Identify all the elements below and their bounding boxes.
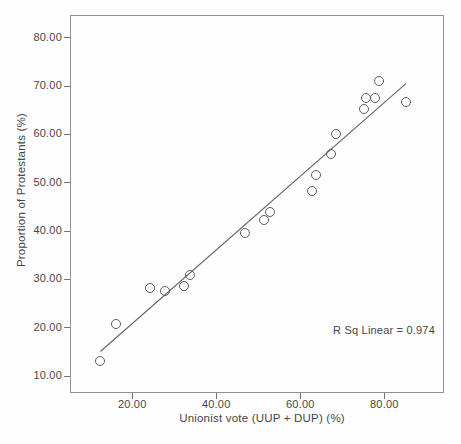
y-tick-mark bbox=[64, 231, 70, 232]
y-tick-mark bbox=[64, 37, 70, 38]
data-point-marker bbox=[265, 207, 275, 217]
data-point-marker bbox=[111, 319, 121, 329]
y-tick-label: 20.00 bbox=[20, 321, 62, 333]
y-tick-mark bbox=[64, 182, 70, 183]
plot-area: R Sq Linear = 0.974 bbox=[70, 15, 444, 393]
data-point-marker bbox=[307, 186, 317, 196]
y-tick-mark bbox=[64, 279, 70, 280]
data-point-marker bbox=[374, 76, 384, 86]
data-point-marker bbox=[185, 270, 195, 280]
y-tick-mark bbox=[64, 86, 70, 87]
data-point-marker bbox=[160, 286, 170, 296]
data-point-marker bbox=[179, 281, 189, 291]
data-point-marker bbox=[311, 170, 321, 180]
x-axis-title: Unionist vote (UUP + DUP) (%) bbox=[179, 412, 345, 424]
x-tick-label: 40.00 bbox=[194, 398, 238, 410]
data-point-marker bbox=[145, 283, 155, 293]
data-point-marker bbox=[331, 129, 341, 139]
y-tick-label: 40.00 bbox=[20, 224, 62, 236]
y-tick-label: 50.00 bbox=[20, 176, 62, 188]
data-point-marker bbox=[240, 228, 250, 238]
y-tick-label: 10.00 bbox=[20, 369, 62, 381]
y-tick-mark bbox=[64, 376, 70, 377]
data-point-marker bbox=[370, 93, 380, 103]
y-tick-mark bbox=[64, 327, 70, 328]
y-tick-label: 80.00 bbox=[20, 31, 62, 43]
data-point-marker bbox=[359, 104, 369, 114]
data-point-marker bbox=[401, 97, 411, 107]
y-tick-label: 30.00 bbox=[20, 272, 62, 284]
y-tick-mark bbox=[64, 134, 70, 135]
r-squared-annotation: R Sq Linear = 0.974 bbox=[333, 324, 435, 336]
y-tick-label: 70.00 bbox=[20, 79, 62, 91]
data-point-marker bbox=[326, 149, 336, 159]
scatter-chart: Proportion of Protestants (%) R Sq Linea… bbox=[0, 0, 461, 444]
data-point-marker bbox=[95, 356, 105, 366]
y-tick-label: 60.00 bbox=[20, 127, 62, 139]
regression-fit-line bbox=[100, 84, 406, 352]
x-tick-label: 80.00 bbox=[362, 398, 406, 410]
x-tick-label: 60.00 bbox=[278, 398, 322, 410]
fit-line-svg bbox=[71, 16, 445, 394]
x-tick-label: 20.00 bbox=[110, 398, 154, 410]
